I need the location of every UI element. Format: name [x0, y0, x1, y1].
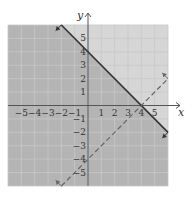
x-tick-label: −5 — [15, 108, 29, 118]
x-tick-label: −3 — [41, 108, 55, 118]
x-tick-label: 2 — [112, 108, 118, 118]
y-tick-label: −1 — [73, 114, 86, 124]
y-tick-label: 5 — [80, 33, 86, 43]
y-tick-label: 3 — [80, 60, 86, 70]
x-tick-label: −4 — [28, 108, 42, 118]
y-axis-label: y — [76, 9, 84, 22]
y-tick-label: 2 — [80, 74, 86, 84]
x-tick-label: 1 — [98, 108, 104, 118]
x-axis-label: x — [178, 106, 185, 119]
y-tick-label: −2 — [73, 127, 86, 137]
graph: xy−5−4−3−2−11234554321−1−2−3−4−5 — [0, 0, 195, 202]
x-tick-label: 4 — [138, 108, 144, 118]
y-tick-label: −3 — [73, 141, 87, 151]
y-tick-label: 1 — [80, 87, 86, 97]
x-tick-label: −2 — [55, 108, 68, 118]
